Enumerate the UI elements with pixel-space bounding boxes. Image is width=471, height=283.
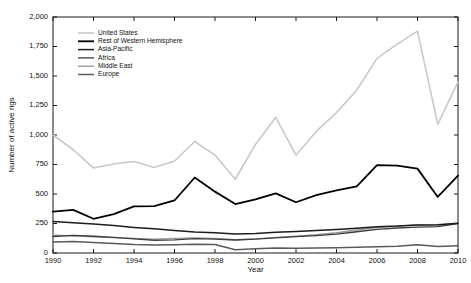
y-axis-title: Number of active rigs — [7, 97, 16, 173]
y-tick-label: 1,000 — [29, 130, 48, 139]
y-tick-label: 1,250 — [29, 100, 48, 109]
x-tick-label: 1994 — [126, 256, 143, 265]
x-tick-label: 2008 — [409, 256, 426, 265]
legend-label-4: Middle East — [98, 62, 133, 69]
x-tick-label: 2004 — [328, 256, 345, 265]
series-line-5 — [53, 242, 458, 250]
y-tick-label: 1,500 — [29, 71, 48, 80]
rig-count-line-chart: 02505007501,0001,2501,5001,7502,00019901… — [0, 0, 471, 283]
chart-canvas: 02505007501,0001,2501,5001,7502,00019901… — [0, 0, 471, 283]
x-axis-title: Year — [247, 265, 264, 274]
y-tick-label: 1,750 — [29, 41, 48, 50]
x-tick-label: 2002 — [288, 256, 305, 265]
x-tick-label: 1996 — [166, 256, 183, 265]
plot-frame — [53, 17, 458, 253]
y-tick-label: 2,000 — [29, 12, 48, 21]
series-line-1 — [53, 165, 458, 219]
x-tick-label: 1992 — [85, 256, 102, 265]
x-tick-label: 2000 — [247, 256, 264, 265]
x-tick-label: 2006 — [369, 256, 386, 265]
legend-label-1: Rest of Western Hemisphere — [98, 37, 183, 45]
legend-label-5: Europe — [98, 70, 120, 78]
x-tick-label: 1998 — [207, 256, 224, 265]
legend-label-3: Africa — [98, 54, 115, 61]
y-tick-label: 750 — [35, 159, 48, 168]
legend-label-2: Asia-Pacific — [98, 45, 133, 52]
legend-label-0: United States — [98, 29, 138, 36]
x-tick-label: 1990 — [45, 256, 62, 265]
y-tick-label: 500 — [35, 189, 48, 198]
y-tick-label: 250 — [35, 218, 48, 227]
x-tick-label: 2010 — [450, 256, 467, 265]
